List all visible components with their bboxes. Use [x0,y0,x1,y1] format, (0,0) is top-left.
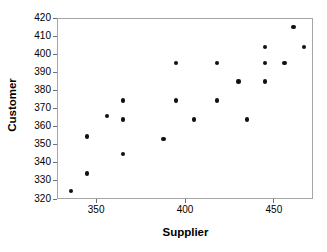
scatter-chart: Customer 3203303403503603703803904004104… [0,0,327,252]
data-point [121,117,125,121]
y-axis-title: Customer [0,0,24,210]
y-tick-label: 370 [24,103,51,113]
y-tick-mark [53,108,57,109]
y-tick-label: 350 [24,139,51,149]
y-tick-label: 380 [24,85,51,95]
y-tick-mark [53,162,57,163]
data-point [263,79,267,83]
plot-area [57,18,313,199]
data-point [192,117,196,121]
y-tick-mark [53,18,57,19]
data-point [245,117,249,121]
x-tick-label: 350 [76,205,116,215]
x-tick-mark [273,199,274,203]
x-tick-label: 450 [254,205,294,215]
y-tick-label: 330 [24,175,51,185]
data-point [215,98,219,102]
y-tick-mark [53,90,57,91]
y-tick-mark [53,199,57,200]
y-tick-label: 320 [24,194,51,204]
x-axis-title-label: Supplier [162,226,208,238]
y-tick-label: 400 [24,49,51,59]
data-point [105,114,109,118]
y-tick-label: 340 [24,157,51,167]
data-point [121,98,125,102]
y-tick-label: 410 [24,31,51,41]
y-tick-label: 420 [24,13,51,23]
x-tick-mark [96,199,97,203]
y-tick-label: 390 [24,67,51,77]
y-axis-title-label: Customer [6,78,18,132]
x-axis-title: Supplier [57,226,314,238]
y-tick-mark [53,54,57,55]
x-tick-mark [185,199,186,203]
y-tick-mark [53,144,57,145]
y-tick-label: 360 [24,121,51,131]
data-point [236,79,240,83]
y-tick-mark [53,36,57,37]
data-point [121,152,125,156]
y-tick-mark [53,126,57,127]
data-point [174,98,178,102]
data-point [291,25,295,29]
y-tick-mark [53,180,57,181]
y-tick-mark [53,72,57,73]
x-tick-label: 400 [165,205,205,215]
